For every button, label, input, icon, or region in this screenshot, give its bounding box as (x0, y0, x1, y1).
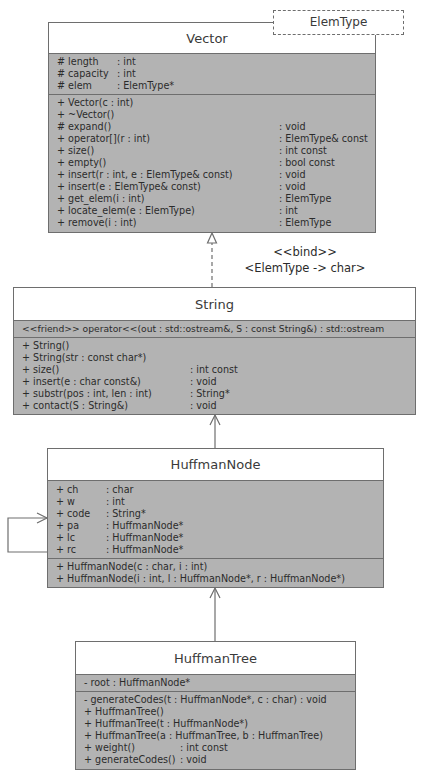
node-to-string-association-arrow (210, 415, 220, 448)
class-string-name: String (195, 297, 234, 312)
attribute-row: + ch: char (56, 484, 375, 496)
node-self-association-arrow (8, 513, 47, 552)
class-vector-name: Vector (186, 31, 227, 46)
operation-row: + String() (22, 340, 407, 352)
attribute-row: + pa: HuffmanNode* (56, 520, 375, 532)
class-huffman-tree-attributes: - root : HuffmanNode* (76, 675, 355, 691)
operation-row: + HuffmanNode(i : int, l : HuffmanNode*,… (56, 573, 375, 585)
class-vector[interactable]: Vector # length: int # capacity: int # e… (48, 22, 376, 233)
class-huffman-node[interactable]: HuffmanNode + ch: char + w: int + code: … (47, 448, 384, 588)
class-string-friends: <<friend>> operator<<(out : std::ostream… (14, 321, 415, 337)
class-vector-attributes: # length: int # capacity: int # elem: El… (49, 54, 375, 94)
template-parameter-box[interactable]: ElemType (273, 10, 404, 35)
class-huffman-tree-name: HuffmanTree (174, 651, 257, 666)
class-huffman-tree-operations: - generateCodes(t : HuffmanNode*, c : ch… (76, 691, 355, 767)
operation-row: # expand(): void (57, 121, 367, 133)
attribute-row: + code: String* (56, 508, 375, 520)
template-parameter-label: ElemType (310, 15, 368, 29)
operation-row: + size(): int const (22, 364, 407, 376)
class-vector-operations: + Vector(c : int) + ~Vector() # expand()… (49, 94, 375, 230)
operation-row: + HuffmanTree() (84, 706, 347, 718)
attribute-row: # length: int (57, 56, 367, 68)
operation-row: + HuffmanNode(c : char, i : int) (56, 561, 375, 573)
operation-row: + substr(pos : int, len : int): String* (22, 388, 407, 400)
operation-row: + get_elem(i : int): ElemType (57, 193, 367, 205)
operation-row: + contact(S : String&): void (22, 400, 407, 412)
class-huffman-tree[interactable]: HuffmanTree - root : HuffmanNode* - gene… (75, 641, 356, 770)
operation-row: + remove(i : int): ElemType (57, 217, 367, 229)
class-string-operations: + String() + String(str : const char*) +… (14, 337, 415, 413)
bind-binding: <ElemType -> char> (235, 260, 375, 276)
attribute-row: # capacity: int (57, 68, 367, 80)
operation-row: + weight(): int const (84, 742, 347, 754)
class-huffman-tree-header: HuffmanTree (76, 642, 355, 675)
operation-row: + insert(e : ElemType& const): void (57, 181, 367, 193)
operation-row: + Vector(c : int) (57, 97, 367, 109)
operation-row: + locate_elem(e : ElemType): int (57, 205, 367, 217)
class-huffman-node-header: HuffmanNode (48, 449, 383, 481)
bind-label: <<bind>> <ElemType -> char> (235, 244, 375, 276)
attribute-row: - root : HuffmanNode* (84, 677, 347, 689)
tree-to-node-association-arrow (210, 588, 220, 641)
class-huffman-node-name: HuffmanNode (171, 457, 261, 472)
operation-row: + insert(e : char const&): void (22, 376, 407, 388)
operation-row: + ~Vector() (57, 109, 367, 121)
operation-row: + operator[](r : int): ElemType& const (57, 133, 367, 145)
operation-row: + insert(r : int, e : ElemType& const): … (57, 169, 367, 181)
friend-row: <<friend>> operator<<(out : std::ostream… (22, 323, 407, 335)
class-huffman-node-operations: + HuffmanNode(c : char, i : int) + Huffm… (48, 558, 383, 586)
operation-row: + HuffmanTree(t : HuffmanNode*) (84, 718, 347, 730)
operation-row: + empty(): bool const (57, 157, 367, 169)
bind-stereotype: <<bind>> (235, 244, 375, 260)
operation-row: + HuffmanTree(a : HuffmanTree, b : Huffm… (84, 730, 347, 742)
class-string-header: String (14, 288, 415, 321)
class-huffman-node-attributes: + ch: char + w: int + code: String* + pa… (48, 481, 383, 558)
operation-row: - generateCodes(t : HuffmanNode*, c : ch… (84, 694, 347, 706)
attribute-row: # elem: ElemType* (57, 80, 367, 92)
operation-row: + String(str : const char*) (22, 352, 407, 364)
attribute-row: + w: int (56, 496, 375, 508)
class-string[interactable]: String <<friend>> operator<<(out : std::… (13, 287, 416, 415)
operation-row: + size(): int const (57, 145, 367, 157)
attribute-row: + lc: HuffmanNode* (56, 532, 375, 544)
bind-realization-arrow (208, 233, 217, 287)
attribute-row: + rc: HuffmanNode* (56, 544, 375, 556)
operation-row: + generateCodes(): void (84, 754, 347, 766)
